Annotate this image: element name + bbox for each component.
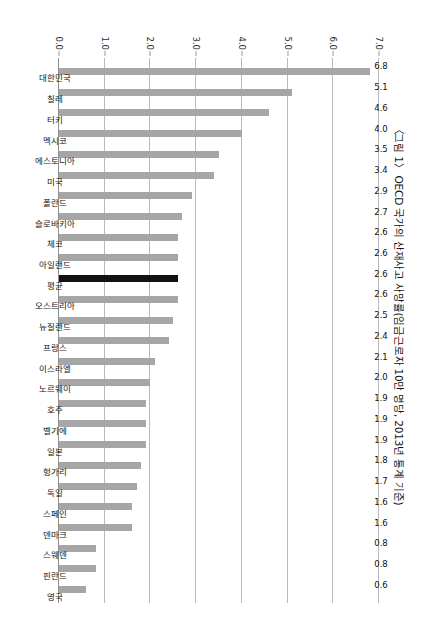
bar xyxy=(59,358,155,365)
y-tick-mark xyxy=(379,51,380,56)
category-slot: 핀란드 xyxy=(1,559,57,580)
bar xyxy=(59,524,132,531)
y-tick-mark xyxy=(150,51,151,56)
y-tick-mark xyxy=(287,51,288,56)
category-slot: 폴란드 xyxy=(1,185,57,206)
bar xyxy=(59,254,178,261)
bar-value-label: 2.6 xyxy=(374,227,388,237)
bar xyxy=(59,213,182,220)
bar-value-label: 2.1 xyxy=(374,352,388,362)
category-slot: 덴마크 xyxy=(1,517,57,538)
bar-value-label: 0.8 xyxy=(374,538,388,548)
chart-title: 〈그림 1〉 OECD 국가의 산재사고 사망률(임금근로자 10만 명당, 2… xyxy=(392,0,407,629)
category-slot: 에스토니아 xyxy=(1,144,57,165)
bar-value-label: 2.9 xyxy=(374,186,388,196)
x-axis-category-labels: 대한민국칠레터키멕시코에스토니아미국폴란드슬로바키아체코아일랜드평균오스트리아뉴… xyxy=(1,58,57,603)
category-slot: 일본 xyxy=(1,434,57,455)
category-slot: 슬로바키아 xyxy=(1,206,57,227)
bar-value-label: 1.9 xyxy=(374,435,388,445)
bar-slot: 1.9 xyxy=(59,413,379,434)
bar-value-label: 2.6 xyxy=(374,289,388,299)
bar-value-label: 4.6 xyxy=(374,103,388,113)
bar-slot: 6.8 xyxy=(59,61,379,82)
bar-value-label: 5.1 xyxy=(374,82,388,92)
bar-value-label: 2.4 xyxy=(374,331,388,341)
bar xyxy=(59,441,146,448)
figure-rotor: 〈그림 1〉 OECD 국가의 산재사고 사망률(임금근로자 10만 명당, 2… xyxy=(0,0,423,629)
category-slot: 칠레 xyxy=(1,82,57,103)
y-tick-label: 2.0 xyxy=(145,36,155,50)
category-slot: 대한민국 xyxy=(1,61,57,82)
y-tick-label: 7.0 xyxy=(374,36,384,50)
bar-slot: 2.6 xyxy=(59,248,379,269)
y-tick-label: 3.0 xyxy=(191,36,201,50)
bar xyxy=(59,68,370,75)
bar-value-label: 2.6 xyxy=(374,248,388,258)
bar-slot: 1.8 xyxy=(59,455,379,476)
bar xyxy=(59,172,214,179)
category-slot: 이스라엘 xyxy=(1,351,57,372)
bar-slot: 2.9 xyxy=(59,185,379,206)
chart-figure: 〈그림 1〉 OECD 국가의 산재사고 사망률(임금근로자 10만 명당, 2… xyxy=(0,0,423,629)
y-tick-label: 0.0 xyxy=(54,36,64,50)
category-slot: 영국 xyxy=(1,579,57,600)
bar-slot: 2.1 xyxy=(59,351,379,372)
bar-slot: 2.6 xyxy=(59,289,379,310)
bar xyxy=(59,317,173,324)
bar-value-label: 6.8 xyxy=(374,61,388,71)
bar xyxy=(59,379,150,386)
bar xyxy=(59,337,169,344)
category-slot: 헝가리 xyxy=(1,455,57,476)
y-tick-label: 4.0 xyxy=(237,36,247,50)
bar-value-label: 1.6 xyxy=(374,518,388,528)
bar xyxy=(59,130,242,137)
category-slot: 노르웨이 xyxy=(1,372,57,393)
bar-value-label: 1.6 xyxy=(374,497,388,507)
bar-series: 6.85.14.64.03.53.42.92.72.62.62.62.62.52… xyxy=(59,58,379,603)
bar xyxy=(59,296,178,303)
category-slot: 스페인 xyxy=(1,496,57,517)
category-slot: 멕시코 xyxy=(1,123,57,144)
category-slot: 호주 xyxy=(1,393,57,414)
bar xyxy=(59,234,178,241)
y-tick-mark xyxy=(59,51,60,56)
category-slot: 뉴질랜드 xyxy=(1,310,57,331)
bar-slot: 0.6 xyxy=(59,579,379,600)
bar-highlighted xyxy=(59,275,178,282)
category-slot: 체코 xyxy=(1,227,57,248)
bar-value-label: 2.7 xyxy=(374,207,388,217)
bar xyxy=(59,462,141,469)
y-tick-mark xyxy=(196,51,197,56)
bar-value-label: 2.0 xyxy=(374,372,388,382)
category-slot: 터키 xyxy=(1,102,57,123)
bar-slot: 0.8 xyxy=(59,559,379,580)
bar-value-label: 1.9 xyxy=(374,414,388,424)
bar-slot: 1.9 xyxy=(59,434,379,455)
category-label: 영국 xyxy=(47,590,63,602)
bar-value-label: 1.8 xyxy=(374,455,388,465)
bar-slot: 2.4 xyxy=(59,331,379,352)
bar-value-label: 0.8 xyxy=(374,559,388,569)
bar xyxy=(59,483,137,490)
bar-slot: 4.6 xyxy=(59,102,379,123)
bar-slot: 2.6 xyxy=(59,227,379,248)
bar-slot: 4.0 xyxy=(59,123,379,144)
bar-slot: 1.6 xyxy=(59,517,379,538)
bar-value-label: 4.0 xyxy=(374,124,388,134)
bar-value-label: 2.5 xyxy=(374,310,388,320)
bar-slot: 2.0 xyxy=(59,372,379,393)
category-slot: 프랑스 xyxy=(1,331,57,352)
bar-value-label: 0.6 xyxy=(374,580,388,590)
bar-slot: 0.8 xyxy=(59,538,379,559)
category-slot: 벨기에 xyxy=(1,413,57,434)
y-tick-mark xyxy=(104,51,105,56)
category-slot: 독일 xyxy=(1,476,57,497)
bar xyxy=(59,109,269,116)
bar-slot: 2.5 xyxy=(59,310,379,331)
bar-value-label: 3.4 xyxy=(374,165,388,175)
bar-slot: 2.7 xyxy=(59,206,379,227)
y-tick-label: 6.0 xyxy=(328,36,338,50)
y-tick-label: 5.0 xyxy=(283,36,293,50)
category-slot: 미국 xyxy=(1,165,57,186)
bar-slot: 1.6 xyxy=(59,496,379,517)
